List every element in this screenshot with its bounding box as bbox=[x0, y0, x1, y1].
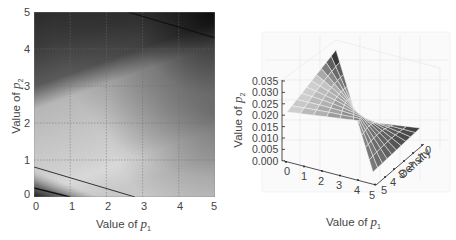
x-tick: 0 bbox=[284, 166, 290, 177]
z-tick: 0.010 bbox=[252, 133, 278, 144]
y-tick: 4 bbox=[24, 44, 30, 55]
x-tick: 4 bbox=[354, 185, 360, 196]
x-axis-label: Value of p1 bbox=[326, 214, 381, 230]
density-tick: 4 bbox=[390, 177, 396, 188]
z-tick: 0.005 bbox=[252, 144, 278, 155]
x-tick: 5 bbox=[211, 201, 217, 212]
z-tick: 0.000 bbox=[252, 156, 278, 167]
z-tick: 0.025 bbox=[252, 99, 278, 110]
x-tick: 2 bbox=[318, 176, 324, 187]
y-tick: 5 bbox=[24, 7, 30, 18]
y-tick: 3 bbox=[24, 81, 30, 92]
y-tick: 0 bbox=[24, 189, 30, 200]
heatmap-canvas bbox=[34, 12, 215, 197]
density-tick: 5 bbox=[381, 185, 387, 196]
z-axis-label: Value of p2 bbox=[230, 80, 246, 160]
z-tick: 0.020 bbox=[252, 110, 278, 121]
x-axis-label: Value of p1 bbox=[96, 216, 151, 232]
z-tick: 0.035 bbox=[252, 76, 278, 87]
x-tick: 4 bbox=[177, 201, 183, 212]
x-tick: 0 bbox=[33, 201, 39, 212]
y-tick: 2 bbox=[24, 118, 30, 129]
x-tick: 2 bbox=[105, 201, 111, 212]
x-tick: 1 bbox=[69, 201, 75, 212]
x-tick: 3 bbox=[336, 180, 342, 191]
x-tick: 5 bbox=[369, 190, 375, 201]
x-tick: 3 bbox=[141, 201, 147, 212]
y-axis-label: Value of p2 bbox=[8, 66, 24, 146]
z-tick: 0.030 bbox=[252, 87, 278, 98]
z-tick: 0.015 bbox=[252, 122, 278, 133]
x-tick: 1 bbox=[301, 171, 307, 182]
y-tick: 1 bbox=[24, 155, 30, 166]
